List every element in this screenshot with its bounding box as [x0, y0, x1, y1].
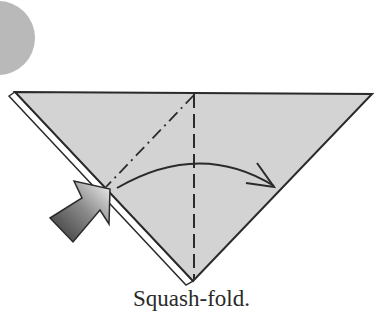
push-arrow-icon: [50, 181, 110, 242]
step-circle: [0, 1, 35, 75]
origami-diagram: [0, 0, 383, 322]
step-caption: Squash-fold.: [0, 286, 383, 312]
